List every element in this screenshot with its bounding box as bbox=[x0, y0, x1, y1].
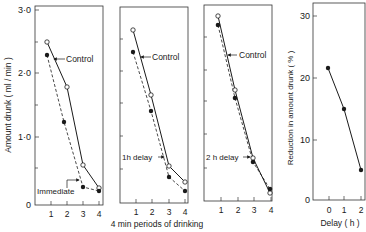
plot-frame bbox=[35, 6, 103, 205]
y-tick-label: 0 bbox=[305, 195, 310, 205]
x-tick-label: 1 bbox=[342, 205, 347, 215]
delay-markers bbox=[216, 23, 273, 192]
y-tick-label: 2·0 bbox=[18, 68, 31, 78]
panel-2h-delay: 1 2 3 4 Control 2 h delay bbox=[204, 5, 274, 215]
shared-x-axis-label: 4 min periods of drinking bbox=[111, 219, 204, 229]
x-tick-label: 1 bbox=[219, 205, 224, 215]
x-tick-label: 2 bbox=[65, 209, 70, 219]
annotation-control: Control bbox=[239, 50, 267, 60]
immediate-markers bbox=[45, 53, 101, 193]
immediate-line bbox=[47, 55, 99, 191]
y-tick-label: 1·0 bbox=[18, 132, 31, 142]
x-tick-label: 0 bbox=[327, 205, 332, 215]
x-tick-label: 1 bbox=[134, 207, 139, 217]
x-tick-label: 3 bbox=[81, 209, 86, 219]
x-ticks bbox=[136, 199, 185, 203]
annotation-immediate: Immediate bbox=[37, 187, 75, 196]
delay-line bbox=[133, 52, 185, 191]
y-ticks bbox=[35, 10, 39, 168]
x-tick-label: 3 bbox=[252, 205, 257, 215]
control-markers bbox=[216, 14, 272, 195]
y-tick-label: 10 bbox=[300, 135, 310, 145]
annotation-control: Control bbox=[66, 54, 94, 64]
panel-1h-delay: 1 2 3 4 Control 1h delay bbox=[120, 7, 188, 217]
y-axis-label: Reduction in amount drunk ( % ) bbox=[286, 50, 295, 165]
annotation-control: Control bbox=[152, 52, 180, 62]
x-tick-label: 2 bbox=[236, 205, 241, 215]
x-axis-label: Delay ( h ) bbox=[320, 218, 359, 228]
y-tick-label: 0 bbox=[26, 200, 31, 210]
y-tick-label: 30 bbox=[300, 11, 310, 21]
panel-reduction: 30 20 10 0 0 1 2 Reduction in amount dru… bbox=[286, 3, 365, 228]
control-line bbox=[218, 16, 270, 193]
x-tick-label: 4 bbox=[269, 205, 274, 215]
x-ticks bbox=[329, 196, 361, 200]
y-tick-label: 3·0 bbox=[18, 5, 31, 15]
y-axis-label: Amount drunk ( ml / min ) bbox=[3, 57, 13, 153]
annotation-1h-delay: 1h delay bbox=[122, 153, 152, 162]
y-ticks bbox=[313, 16, 317, 140]
y-ticks bbox=[204, 37, 207, 168]
figure: 3·0 2·0 1·0 0 1 2 3 4 Amount drunk ( ml … bbox=[0, 0, 366, 232]
y-tick-label: 20 bbox=[300, 73, 310, 83]
x-tick-label: 4 bbox=[183, 207, 188, 217]
y-ticks bbox=[120, 39, 123, 169]
x-tick-label: 4 bbox=[97, 209, 102, 219]
x-tick-label: 3 bbox=[167, 207, 172, 217]
x-tick-label: 2 bbox=[359, 205, 364, 215]
plot-frame bbox=[313, 3, 365, 200]
annotation-2h-delay: 2 h delay bbox=[206, 153, 238, 162]
x-tick-label: 1 bbox=[49, 209, 54, 219]
x-ticks bbox=[51, 201, 99, 205]
x-ticks bbox=[221, 197, 271, 201]
reduction-line bbox=[328, 68, 361, 170]
panel-immediate: 3·0 2·0 1·0 0 1 2 3 4 Amount drunk ( ml … bbox=[3, 5, 103, 219]
x-tick-label: 2 bbox=[150, 207, 155, 217]
